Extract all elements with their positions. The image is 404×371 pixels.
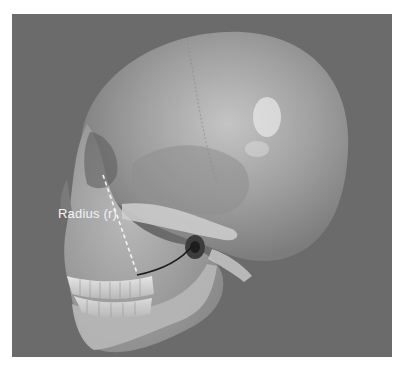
radius-label: Radius (r) xyxy=(58,206,117,221)
skull-image-frame: Radius (r) xyxy=(12,14,392,357)
skull-illustration xyxy=(12,14,392,357)
